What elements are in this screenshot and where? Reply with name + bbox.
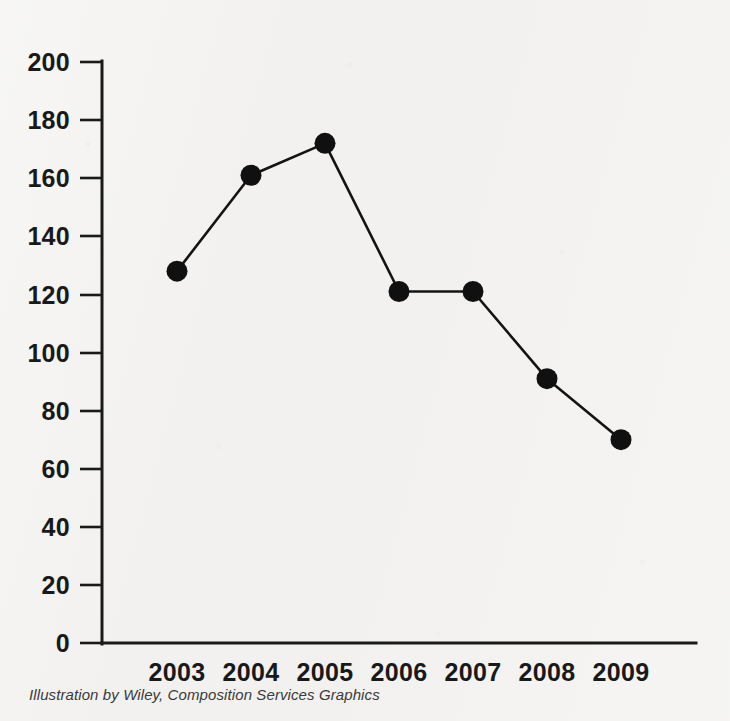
- y-tick-label-20: 20: [42, 571, 70, 599]
- y-tick-label-140: 140: [27, 222, 70, 250]
- y-tick-label-0: 0: [56, 629, 70, 657]
- y-tick-label-120: 120: [27, 281, 70, 309]
- data-point-2003: [167, 261, 188, 282]
- data-point-2009: [611, 429, 632, 450]
- data-point-2005: [315, 133, 336, 154]
- x-tick-label-2005: 2005: [297, 658, 354, 686]
- figure-caption: Illustration by Wiley, Composition Servi…: [29, 686, 380, 703]
- x-tick-label-2003: 2003: [149, 658, 206, 686]
- y-tick-label-160: 160: [27, 164, 70, 192]
- x-tick-label-2007: 2007: [445, 658, 502, 686]
- y-tick-label-80: 80: [42, 397, 70, 425]
- x-tick-label-2004: 2004: [223, 658, 280, 686]
- y-tick-label-60: 60: [42, 455, 70, 483]
- data-point-2007: [463, 281, 484, 302]
- y-tick-label-100: 100: [27, 339, 70, 367]
- y-tick-label-40: 40: [42, 513, 70, 541]
- x-tick-label-2009: 2009: [593, 658, 650, 686]
- chart-figure: 200 180 160 140 120 100 80 60 40 20 0 20…: [0, 0, 730, 721]
- y-axis-ticks: [80, 62, 102, 643]
- y-tick-label-180: 180: [27, 106, 70, 134]
- x-axis-tick-labels: 2003 2004 2005 2006 2007 2008 2009: [149, 658, 650, 686]
- data-point-2004: [241, 165, 262, 186]
- y-axis-tick-labels: 200 180 160 140 120 100 80 60 40 20 0: [27, 48, 70, 657]
- line-chart: 200 180 160 140 120 100 80 60 40 20 0 20…: [0, 0, 730, 721]
- data-point-2006: [389, 281, 410, 302]
- x-tick-label-2008: 2008: [519, 658, 576, 686]
- data-point-2008: [537, 368, 558, 389]
- y-tick-label-200: 200: [27, 48, 70, 76]
- x-tick-label-2006: 2006: [371, 658, 428, 686]
- series-markers: [167, 133, 632, 450]
